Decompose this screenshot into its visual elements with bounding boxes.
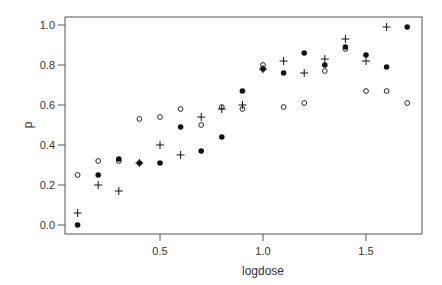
x-tick-label: 1.5 xyxy=(358,245,373,257)
open-circle-marker xyxy=(302,101,307,106)
open-circle-marker xyxy=(137,117,142,122)
y-tick-label: 0.4 xyxy=(40,139,55,151)
plus-marker xyxy=(218,105,226,113)
plus-marker xyxy=(300,69,308,77)
open-circle-marker xyxy=(322,69,327,74)
open-circle-marker xyxy=(384,89,389,94)
y-tick-label: 1.0 xyxy=(40,19,55,31)
y-tick-label: 0.0 xyxy=(40,219,55,231)
filled-circle-marker xyxy=(178,124,184,130)
y-tick: 0.6 xyxy=(40,99,65,111)
x-tick-label: 1.0 xyxy=(255,245,270,257)
series-filled-circle xyxy=(75,24,410,228)
y-tick-label: 0.8 xyxy=(40,59,55,71)
plus-marker xyxy=(197,113,205,121)
filled-circle-marker xyxy=(322,62,328,68)
y-tick: 0.0 xyxy=(40,219,65,231)
y-tick-label: 0.2 xyxy=(40,179,55,191)
plus-marker xyxy=(94,181,102,189)
open-circle-marker xyxy=(405,101,410,106)
y-axis-label: p xyxy=(21,121,35,128)
open-circle-marker xyxy=(75,173,80,178)
plot-frame xyxy=(65,17,422,234)
filled-circle-marker xyxy=(404,24,410,30)
filled-circle-marker xyxy=(240,88,246,94)
filled-circle-marker xyxy=(301,50,307,56)
open-circle-marker xyxy=(199,123,204,128)
open-circle-marker xyxy=(158,115,163,120)
x-axis-label: logdose xyxy=(242,264,284,278)
data-points xyxy=(74,23,410,228)
x-tick: 0.5 xyxy=(152,234,167,257)
plus-marker xyxy=(321,55,329,63)
filled-circle-marker xyxy=(157,160,163,166)
filled-circle-marker xyxy=(219,134,225,140)
y-tick: 0.2 xyxy=(40,179,65,191)
x-axis: 0.51.01.5 xyxy=(152,234,373,257)
plus-marker xyxy=(383,23,391,31)
plus-marker xyxy=(177,151,185,159)
plus-marker xyxy=(362,57,370,65)
open-circle-marker xyxy=(364,89,369,94)
filled-circle-marker xyxy=(75,222,81,228)
filled-circle-marker xyxy=(198,148,204,154)
x-tick: 1.0 xyxy=(255,234,270,257)
y-tick: 0.4 xyxy=(40,139,65,151)
x-tick: 1.5 xyxy=(358,234,373,257)
scatter-chart: 0.00.20.40.60.81.0 0.51.01.5 logdose p xyxy=(0,0,442,285)
y-tick: 1.0 xyxy=(40,19,65,31)
filled-circle-marker xyxy=(384,64,390,70)
open-circle-marker xyxy=(178,107,183,112)
x-tick-label: 0.5 xyxy=(152,245,167,257)
plus-marker xyxy=(238,101,246,109)
plus-marker xyxy=(115,187,123,195)
series-plus xyxy=(74,23,391,217)
plus-marker xyxy=(156,141,164,149)
y-axis: 0.00.20.40.60.81.0 xyxy=(40,19,65,231)
open-circle-marker xyxy=(96,159,101,164)
filled-circle-marker xyxy=(95,172,101,178)
open-circle-marker xyxy=(281,105,286,110)
filled-circle-marker xyxy=(363,52,369,58)
plus-marker xyxy=(135,159,143,167)
y-tick-label: 0.6 xyxy=(40,99,55,111)
plus-marker xyxy=(341,35,349,43)
plus-marker xyxy=(259,65,267,73)
plus-marker xyxy=(74,209,82,217)
series-open-circle xyxy=(75,47,409,178)
filled-circle-marker xyxy=(281,70,287,76)
y-tick: 0.8 xyxy=(40,59,65,71)
plus-marker xyxy=(280,57,288,65)
